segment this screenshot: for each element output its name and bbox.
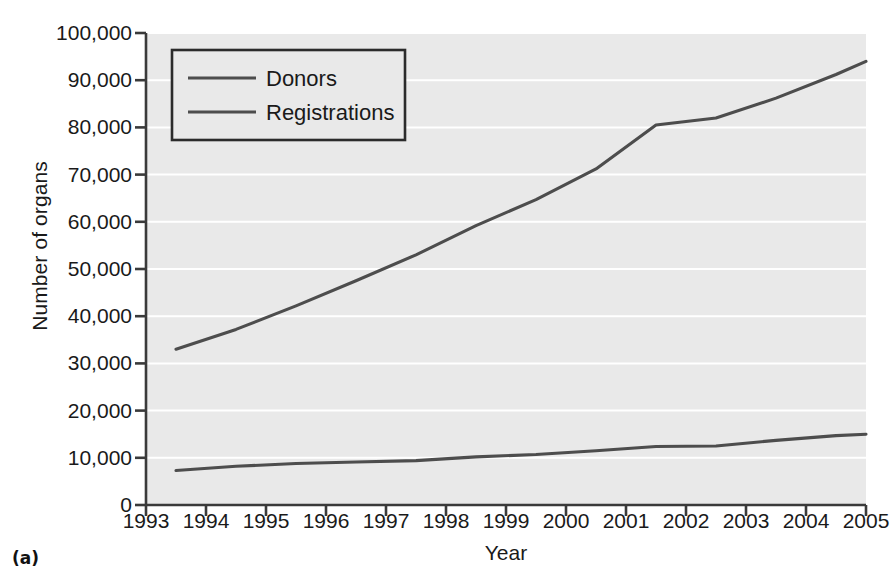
legend-label-donors: Donors [266,66,337,91]
legend-label-registrations: Registrations [266,100,394,125]
x-axis-title: Year [146,541,866,565]
y-axis-ticks [135,33,146,505]
panel-caption: (a) [12,548,39,568]
legend: DonorsRegistrations [172,50,405,140]
plot-area: DonorsRegistrations [0,0,894,582]
legend-box [172,50,405,140]
x-axis-tick-label: 2005 [831,509,894,533]
chart-figure: Number of organs 010,00020,00030,00040,0… [0,0,894,582]
